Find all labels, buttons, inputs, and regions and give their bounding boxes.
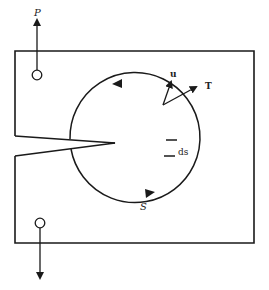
contour-arrow-bottom <box>145 189 155 198</box>
u-label: u <box>170 69 177 79</box>
arc-element-ds <box>164 140 177 156</box>
contour-s <box>70 73 200 203</box>
upper-pin-hole <box>32 70 42 80</box>
lower-pin-hole <box>35 218 45 228</box>
ds-label: ds <box>178 147 189 157</box>
specimen-plate <box>15 51 254 243</box>
cracked-plate-diagram: P ds u T S <box>0 0 269 290</box>
crack <box>15 136 116 156</box>
t-label: T <box>205 81 212 91</box>
load-label: P <box>33 7 41 18</box>
contour-label: S <box>140 201 147 212</box>
contour-arrow-top <box>112 79 122 88</box>
